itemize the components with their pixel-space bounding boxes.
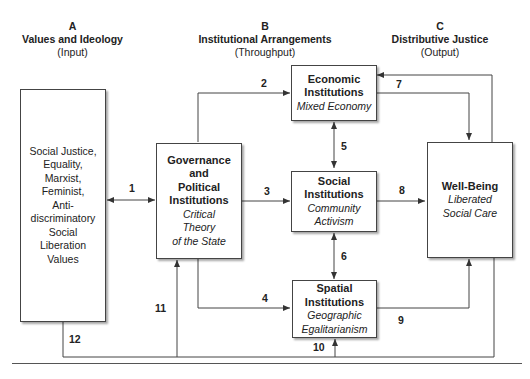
arrow-label-8: 8 xyxy=(399,184,405,196)
spatial-institutions-box: Spatial Institutions Geographic Egalitar… xyxy=(292,280,377,338)
social-institutions-box: Social Institutions Community Activism xyxy=(291,171,377,232)
arrow-label-4: 4 xyxy=(262,292,268,304)
arrow-label-3: 3 xyxy=(264,185,270,197)
bottom-rule xyxy=(12,363,522,364)
well-being-box: Well-Being Liberated Social Care xyxy=(427,142,513,258)
arrow-label-1: 1 xyxy=(129,182,135,194)
values-ideology-box: Social Justice, Equality, Marxist, Femin… xyxy=(20,89,106,322)
arrow-label-10: 10 xyxy=(313,341,325,353)
arrow-label-6: 6 xyxy=(341,250,347,262)
governance-political-box: Governance and Political Institutions Cr… xyxy=(156,143,242,259)
arrow-label-12: 12 xyxy=(69,333,81,345)
economic-institutions-box: Economic Institutions Mixed Economy xyxy=(291,65,377,121)
arrow-label-5: 5 xyxy=(341,140,347,152)
arrow-label-7: 7 xyxy=(396,78,402,90)
arrow-label-11: 11 xyxy=(155,302,166,314)
arrow-label-9: 9 xyxy=(398,314,404,326)
arrow-label-2: 2 xyxy=(261,77,267,89)
